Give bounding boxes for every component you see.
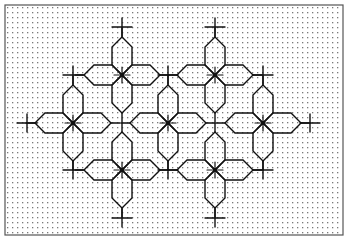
star-center [261,121,265,125]
star-center [120,168,124,172]
dot-grid [6,6,342,234]
star-center [213,73,217,77]
pattern-diagram [0,0,349,239]
star-center [213,168,217,172]
star-center [120,73,124,77]
star-center [166,121,170,125]
star-center [71,121,75,125]
